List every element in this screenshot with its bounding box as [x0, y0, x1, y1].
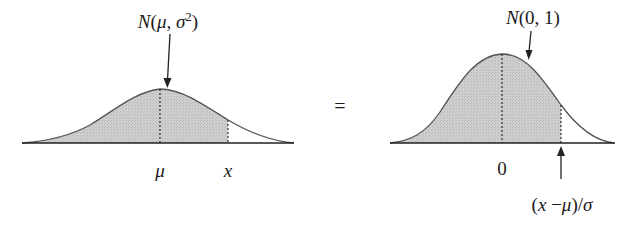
right-z-label: (x −μ)/σ: [532, 194, 593, 216]
equals-sign: =: [334, 95, 345, 117]
right-mean-label: 0: [497, 158, 507, 179]
right-arrow-down-icon: [526, 31, 533, 60]
right-shaded-area: [390, 54, 561, 143]
left-mean-label: μ: [154, 160, 165, 181]
right-distribution-panel: N(0, 1) 0 (x −μ)/σ: [390, 7, 615, 216]
left-title: N(μ, σ2): [137, 9, 198, 33]
right-title: N(0, 1): [505, 7, 560, 29]
left-shaded-area: [22, 89, 228, 143]
left-x-label: x: [223, 160, 233, 181]
normal-standardization-diagram: N(μ, σ2) μ x = N(0, 1) 0 (x −μ)/σ: [0, 0, 637, 232]
left-distribution-panel: N(μ, σ2) μ x: [22, 9, 294, 181]
left-arrow-down-icon: [164, 34, 172, 88]
right-arrow-up-icon: [557, 146, 565, 179]
